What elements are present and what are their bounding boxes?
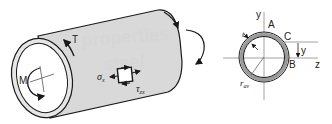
dimension-y-label: y: [301, 45, 306, 56]
radius-label: rav: [240, 78, 250, 89]
axis-y-label: y: [256, 9, 261, 20]
torque-label: T: [72, 34, 78, 45]
cross-section: y A C y B z t rav: [223, 9, 320, 100]
thickness-arrow-icon: [252, 44, 258, 50]
tube-cross-section-diagram: properties steel M T σx τzx: [0, 0, 332, 124]
radius-line: [251, 57, 264, 75]
end-rotation-arrow-icon: [186, 30, 204, 64]
point-a-label: A: [268, 19, 275, 30]
point-c-label: C: [284, 31, 291, 42]
axis-z-label: z: [315, 59, 320, 70]
moment-label: M: [19, 75, 27, 86]
point-b-label: B: [289, 59, 296, 70]
thickness-arrow-icon: [244, 34, 248, 38]
tube-3d: properties steel M T σx τzx: [4, 10, 204, 123]
